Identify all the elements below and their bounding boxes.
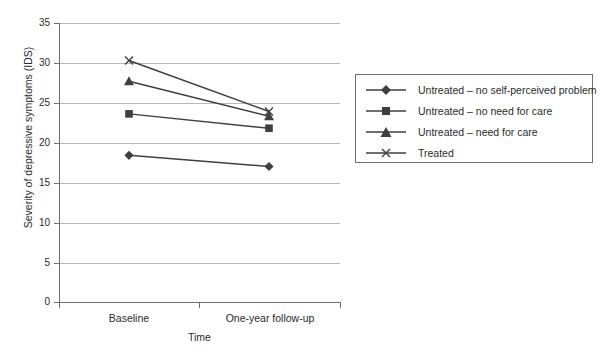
gridline-30 bbox=[59, 63, 340, 64]
legend-label: Untreated – no self-perceived problem bbox=[418, 84, 597, 96]
legend-label: Treated bbox=[418, 147, 454, 159]
plot-area bbox=[59, 23, 340, 303]
gridline-10 bbox=[59, 223, 340, 224]
legend-label: Untreated – no need for care bbox=[418, 105, 552, 117]
legend-item-treated[interactable]: Treated bbox=[356, 143, 594, 163]
chart-figure: 35 30 25 20 15 10 5 0 Severity of depres… bbox=[0, 0, 614, 356]
x-tick-label-baseline: Baseline bbox=[49, 312, 209, 324]
y-tick-mark-5 bbox=[54, 263, 59, 264]
gridline-20 bbox=[59, 143, 340, 144]
x-axis-title: Time bbox=[59, 331, 340, 343]
x-tick-mark-start bbox=[59, 302, 60, 308]
y-tick-label-0: 0 bbox=[10, 297, 50, 307]
y-tick-mark-10 bbox=[54, 223, 59, 224]
y-tick-mark-35 bbox=[54, 23, 59, 24]
y-tick-mark-25 bbox=[54, 103, 59, 104]
y-tick-mark-30 bbox=[54, 63, 59, 64]
gridline-25 bbox=[59, 103, 340, 104]
legend-item-untreated-no-self-perceived-problem[interactable]: Untreated – no self-perceived problem bbox=[356, 80, 594, 100]
x-tick-label-followup: One-year follow-up bbox=[190, 312, 350, 324]
legend-item-untreated-no-need-for-care[interactable]: Untreated – no need for care bbox=[356, 101, 594, 121]
legend-key-square-icon bbox=[364, 101, 408, 121]
legend-key-triangle-icon bbox=[364, 122, 408, 142]
legend-key-diamond-icon bbox=[364, 80, 408, 100]
y-tick-mark-15 bbox=[54, 183, 59, 184]
legend-key-cross-icon bbox=[364, 143, 408, 163]
y-axis-line bbox=[59, 23, 60, 303]
legend-label: Untreated – need for care bbox=[418, 126, 538, 138]
x-tick-mark-middle bbox=[199, 302, 200, 308]
y-tick-mark-20 bbox=[54, 143, 59, 144]
legend-item-untreated-need-for-care[interactable]: Untreated – need for care bbox=[356, 122, 594, 142]
gridline-15 bbox=[59, 183, 340, 184]
gridline-5 bbox=[59, 263, 340, 264]
gridline-35 bbox=[59, 23, 340, 24]
y-axis-title: Severity of depressive symptoms (IDS) bbox=[23, 8, 34, 268]
x-tick-mark-end bbox=[340, 302, 341, 308]
chart-legend: Untreated – no self-perceived problem Un… bbox=[355, 74, 593, 163]
